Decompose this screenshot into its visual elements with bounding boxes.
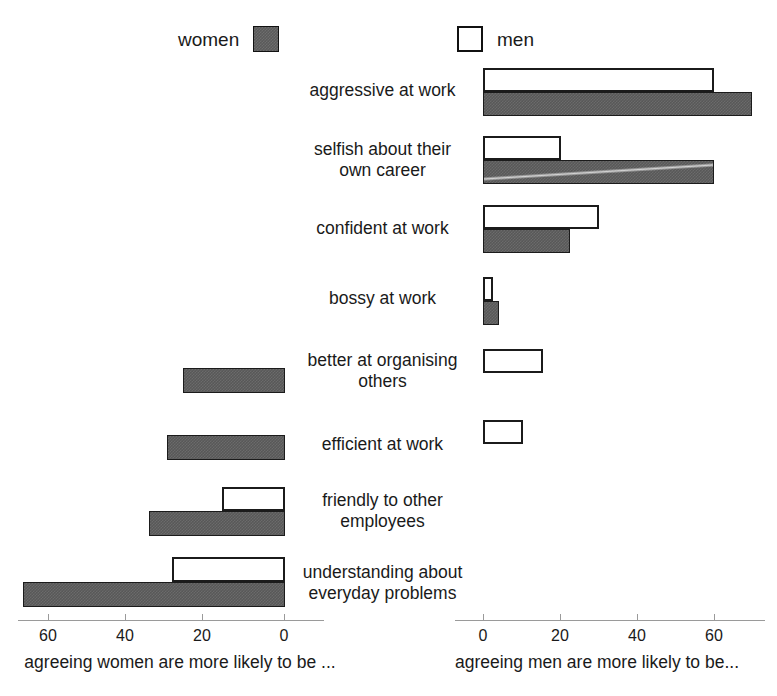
bar-women-selfish-about-own-career xyxy=(483,160,714,184)
right-axis-tick xyxy=(714,614,715,621)
bar-men-aggressive-at-work xyxy=(483,68,714,92)
category-label: bossy at work xyxy=(290,288,475,309)
bar-men-confident-at-work xyxy=(483,205,599,229)
left-axis-title: agreeing women are more likely to be ... xyxy=(0,652,360,672)
legend-swatch-women-icon xyxy=(253,26,279,52)
category-label: better at organisingothers xyxy=(290,350,475,392)
category-label: selfish about theirown career xyxy=(290,139,475,181)
left-axis-tick-label: 60 xyxy=(28,628,68,644)
legend-label-women: women xyxy=(178,30,239,49)
category-label: confident at work xyxy=(290,218,475,239)
bar-men-understanding-about-everyday-problems xyxy=(172,557,285,582)
right-axis-title: agreeing men are more likely to be... xyxy=(417,652,777,672)
category-label: efficient at work xyxy=(290,434,475,455)
category-label: aggressive at work xyxy=(290,80,475,101)
right-axis-tick xyxy=(637,614,638,621)
bar-men-bossy-at-work xyxy=(483,277,493,301)
bar-men-selfish-about-own-career xyxy=(483,136,561,160)
legend-label-men: men xyxy=(497,30,534,49)
left-axis-tick-label: 20 xyxy=(182,628,222,644)
bar-women-better-at-organising-others xyxy=(183,368,285,393)
category-label: friendly to otheremployees xyxy=(290,490,475,532)
left-axis-tick-label: 40 xyxy=(105,628,145,644)
legend-swatch-men-icon xyxy=(457,26,483,52)
bar-women-efficient-at-work xyxy=(167,435,285,460)
right-axis-tick-label: 60 xyxy=(694,628,734,644)
bar-men-efficient-at-work xyxy=(483,420,523,444)
tornado-chart: women men aggressive at work selfish abo… xyxy=(0,0,777,696)
left-axis-tick xyxy=(48,614,49,621)
right-axis-line xyxy=(455,620,765,621)
bar-men-better-at-organising-others xyxy=(483,349,543,373)
left-axis-line xyxy=(18,620,324,621)
right-axis-tick xyxy=(483,614,484,621)
bar-women-friendly-to-other-employees xyxy=(149,511,285,536)
category-label: understanding abouteveryday problems xyxy=(290,562,475,604)
bar-women-confident-at-work xyxy=(483,229,570,253)
bar-women-understanding-about-everyday-problems xyxy=(23,582,285,607)
bar-men-friendly-to-other-employees xyxy=(222,487,285,511)
right-axis-tick xyxy=(560,614,561,621)
right-axis-tick-label: 40 xyxy=(617,628,657,644)
right-axis-tick-label: 20 xyxy=(540,628,580,644)
right-axis-tick-label: 0 xyxy=(463,628,503,644)
left-axis-tick xyxy=(284,614,285,621)
legend-entry-women: women xyxy=(178,26,279,52)
bar-women-aggressive-at-work xyxy=(483,92,752,116)
left-axis-tick xyxy=(202,614,203,621)
left-axis-tick xyxy=(125,614,126,621)
left-axis-tick-label: 0 xyxy=(264,628,304,644)
bar-women-bossy-at-work xyxy=(483,301,499,325)
legend-entry-men: men xyxy=(457,26,534,52)
